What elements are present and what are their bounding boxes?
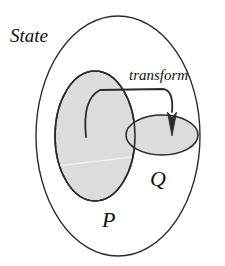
label-set-q: Q <box>150 166 166 191</box>
label-transform: transform <box>129 67 188 83</box>
label-set-p: P <box>101 207 115 232</box>
diagram-canvas: State transform P Q <box>0 0 225 266</box>
label-state: State <box>10 25 48 46</box>
ellipse-set-q <box>126 115 198 155</box>
set-diagram-figure: State transform P Q <box>0 0 225 266</box>
